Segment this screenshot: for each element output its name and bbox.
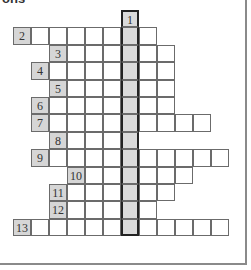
answer-cell[interactable] [85,97,103,114]
answer-cell[interactable] [139,45,157,62]
answer-cell[interactable] [67,201,85,218]
key-column-cell[interactable] [121,97,139,114]
clue-number-cell[interactable]: 1 [121,10,139,27]
answer-cell[interactable] [103,219,121,236]
answer-cell[interactable] [103,62,121,79]
key-column-cell[interactable] [121,201,139,218]
clue-number-cell[interactable]: 13 [13,219,31,236]
answer-cell[interactable] [193,219,211,236]
answer-cell[interactable] [31,219,49,236]
clue-number-cell[interactable]: 11 [49,184,67,201]
answer-cell[interactable] [139,149,157,166]
clue-number-cell[interactable]: 5 [49,80,67,97]
answer-cell[interactable] [103,45,121,62]
key-column-cell[interactable] [121,167,139,184]
answer-cell[interactable] [139,62,157,79]
answer-cell[interactable] [67,62,85,79]
answer-cell[interactable] [67,149,85,166]
answer-cell[interactable] [175,167,193,184]
answer-cell[interactable] [157,97,175,114]
answer-cell[interactable] [67,80,85,97]
answer-cell[interactable] [103,114,121,131]
answer-cell[interactable] [67,184,85,201]
answer-cell[interactable] [175,149,193,166]
answer-cell[interactable] [103,27,121,44]
key-column-cell[interactable] [121,27,139,44]
key-column-cell[interactable] [121,219,139,236]
answer-cell[interactable] [85,45,103,62]
answer-cell[interactable] [85,114,103,131]
clue-number-cell[interactable]: 8 [49,132,67,149]
answer-cell[interactable] [193,114,211,131]
answer-cell[interactable] [157,149,175,166]
clue-number-cell[interactable]: 12 [49,201,67,218]
answer-cell[interactable] [85,62,103,79]
answer-cell[interactable] [103,80,121,97]
answer-cell[interactable] [49,219,67,236]
answer-cell[interactable] [103,201,121,218]
answer-cell[interactable] [157,45,175,62]
answer-cell[interactable] [67,132,85,149]
answer-cell[interactable] [139,219,157,236]
key-column-cell[interactable] [121,132,139,149]
clue-number-cell[interactable]: 2 [13,27,31,44]
answer-cell[interactable] [49,27,67,44]
answer-cell[interactable] [139,114,157,131]
answer-cell[interactable] [103,97,121,114]
answer-cell[interactable] [139,97,157,114]
key-column-cell[interactable] [121,62,139,79]
clue-number-cell[interactable]: 9 [31,149,49,166]
answer-cell[interactable] [85,80,103,97]
answer-cell[interactable] [49,97,67,114]
answer-cell[interactable] [85,27,103,44]
answer-cell[interactable] [85,219,103,236]
answer-cell[interactable] [103,149,121,166]
answer-cell[interactable] [85,167,103,184]
answer-cell[interactable] [157,114,175,131]
answer-cell[interactable] [193,149,211,166]
answer-cell[interactable] [49,149,67,166]
clue-number-cell[interactable]: 4 [31,62,49,79]
answer-cell[interactable] [103,132,121,149]
clue-number: 11 [50,186,66,200]
clue-number-cell[interactable]: 10 [67,167,85,184]
key-column-cell[interactable] [121,184,139,201]
answer-cell[interactable] [85,149,103,166]
answer-cell[interactable] [175,219,193,236]
answer-cell[interactable] [85,184,103,201]
answer-cell[interactable] [139,184,157,201]
clue-number-cell[interactable]: 6 [31,97,49,114]
answer-cell[interactable] [49,114,67,131]
answer-cell[interactable] [103,167,121,184]
answer-cell[interactable] [103,184,121,201]
answer-cell[interactable] [49,62,67,79]
answer-cell[interactable] [139,201,157,218]
answer-cell[interactable] [139,80,157,97]
answer-cell[interactable] [67,45,85,62]
clue-number-cell[interactable]: 3 [49,45,67,62]
answer-cell[interactable] [139,167,157,184]
key-column-cell[interactable] [121,114,139,131]
frame-border-right [245,0,247,265]
key-column-cell[interactable] [121,80,139,97]
answer-cell[interactable] [157,167,175,184]
section-heading-fragment: ons [2,0,25,6]
answer-cell[interactable] [139,27,157,44]
answer-cell[interactable] [157,62,175,79]
answer-cell[interactable] [211,149,229,166]
answer-cell[interactable] [67,27,85,44]
key-column-cell[interactable] [121,45,139,62]
answer-cell[interactable] [157,184,175,201]
answer-cell[interactable] [175,114,193,131]
answer-cell[interactable] [211,219,229,236]
answer-cell[interactable] [85,201,103,218]
answer-cell[interactable] [31,27,49,44]
answer-cell[interactable] [67,219,85,236]
key-column-cell[interactable] [121,149,139,166]
answer-cell[interactable] [157,219,175,236]
clue-number-cell[interactable]: 7 [31,114,49,131]
answer-cell[interactable] [67,114,85,131]
answer-cell[interactable] [85,132,103,149]
answer-cell[interactable] [157,80,175,97]
answer-cell[interactable] [67,97,85,114]
